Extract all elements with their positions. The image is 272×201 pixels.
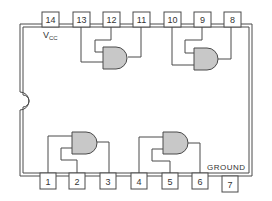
- pin-8-label: 8: [230, 15, 235, 25]
- ground-label: GROUND: [207, 163, 246, 172]
- pin-14: 14: [42, 12, 59, 27]
- ic-pinout-diagram: 14 13 12 11 10 9 8 1: [0, 0, 272, 201]
- pin-12-label: 12: [106, 15, 116, 25]
- pin-10-label: 10: [167, 15, 177, 25]
- pin-5-label: 5: [167, 177, 172, 187]
- bottom-pins: 1 2 3 4 5 6 7: [40, 173, 238, 192]
- pin-10: 10: [164, 12, 181, 27]
- pin-2-label: 2: [74, 177, 79, 187]
- pin-6: 6: [192, 173, 208, 189]
- vcc-label: VCC: [43, 30, 58, 41]
- ic-body: [20, 24, 252, 176]
- top-pins: 14 13 12 11 10 9 8: [42, 12, 241, 27]
- pin-6-label: 6: [197, 177, 202, 187]
- pin-4: 4: [131, 173, 147, 189]
- pin-11-label: 11: [137, 15, 146, 25]
- pin-7-label: 7: [227, 180, 232, 190]
- pin-5: 5: [162, 173, 178, 189]
- pin-12: 12: [103, 12, 120, 27]
- and-gate-2: [172, 27, 231, 70]
- pin-4-label: 4: [136, 177, 141, 187]
- pin-1-label: 1: [45, 177, 50, 187]
- pin-7: 7: [222, 176, 238, 192]
- pin-9: 9: [194, 12, 211, 27]
- pin-1: 1: [40, 173, 56, 189]
- pin-3: 3: [100, 173, 116, 189]
- pin-9-label: 9: [200, 15, 205, 25]
- pin-13-label: 13: [76, 15, 86, 25]
- pin-2: 2: [69, 173, 85, 189]
- pin-11: 11: [133, 12, 150, 27]
- pin-8: 8: [224, 12, 241, 27]
- pin-13: 13: [73, 12, 90, 27]
- pin-14-label: 14: [45, 15, 55, 25]
- and-gate-1: [81, 27, 141, 69]
- pin-3-label: 3: [105, 177, 110, 187]
- and-gate-3: [48, 132, 109, 173]
- and-gate-4: [139, 132, 200, 173]
